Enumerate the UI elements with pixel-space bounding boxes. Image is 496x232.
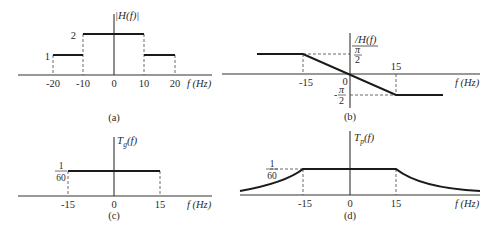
panel-d-tick: -15 bbox=[298, 198, 312, 209]
svg-text:60: 60 bbox=[56, 173, 66, 183]
panel-a-tick: -20 bbox=[46, 78, 60, 89]
panel-c-tick: 0 bbox=[111, 199, 116, 210]
panel-b-tick: -15 bbox=[299, 77, 313, 88]
svg-text:1: 1 bbox=[270, 159, 275, 169]
panel-b-phase: /H(f) π 2 - π 2 -15 0 15 f (Hz) (b) bbox=[222, 33, 480, 123]
panel-d-phase-delay: Tp(f) 1 60 -15 0 15 f (Hz) (d) bbox=[240, 131, 480, 222]
svg-text:2: 2 bbox=[339, 95, 344, 106]
panel-a-xunit: f (Hz) bbox=[187, 78, 212, 90]
panel-a-level-2: 2 bbox=[71, 30, 76, 41]
panel-a-tick: 10 bbox=[139, 78, 150, 89]
panel-a-tick: 20 bbox=[170, 78, 181, 89]
panel-d-caption: (d) bbox=[344, 210, 357, 222]
panel-c-caption: (c) bbox=[108, 210, 120, 222]
panel-d-xunit: f (Hz) bbox=[455, 198, 480, 210]
panel-a-tick: -10 bbox=[76, 78, 90, 89]
panel-c-xunit: f (Hz) bbox=[187, 199, 212, 211]
panel-d-level-1-60: 1 60 bbox=[266, 159, 278, 181]
panel-d-ylabel: Tp(f) bbox=[354, 131, 375, 146]
panel-b-level-pos-pi-half: π 2 bbox=[354, 44, 362, 65]
panel-b-tick: 15 bbox=[391, 61, 402, 72]
panel-c-group-delay: Tg(f) 1 60 -15 0 15 f (Hz) (c) bbox=[18, 134, 212, 222]
panel-b-caption: (b) bbox=[344, 111, 357, 123]
svg-text:1: 1 bbox=[59, 161, 64, 171]
svg-text:60: 60 bbox=[267, 171, 277, 181]
svg-text:-: - bbox=[334, 89, 337, 100]
panel-a-tick: 0 bbox=[111, 78, 116, 89]
panel-c-level-1-60: 1 60 bbox=[55, 161, 67, 183]
panel-a-amplitude: |H(f)| 2 1 -20 -10 0 10 20 f (Hz) (a) bbox=[18, 9, 212, 124]
panel-b-level-neg-pi-half: - π 2 bbox=[334, 84, 346, 106]
svg-text:Tg(f): Tg(f) bbox=[117, 134, 138, 149]
panel-b-xunit: f (Hz) bbox=[455, 77, 480, 89]
panel-c-tick: -15 bbox=[61, 199, 75, 210]
panel-b-tick: 0 bbox=[342, 76, 347, 87]
panel-d-tick: 0 bbox=[347, 198, 352, 209]
svg-text:2: 2 bbox=[355, 54, 360, 65]
panel-c-ylabel: Tg(f) bbox=[117, 134, 138, 149]
panel-a-level-1: 1 bbox=[45, 51, 50, 62]
svg-text:Tp(f): Tp(f) bbox=[354, 131, 375, 146]
panel-d-tick: 15 bbox=[391, 198, 402, 209]
panel-a-ylabel: |H(f)| bbox=[115, 9, 139, 22]
panel-a-caption: (a) bbox=[108, 112, 120, 124]
panel-c-tick: 15 bbox=[155, 199, 166, 210]
figure: |H(f)| 2 1 -20 -10 0 10 20 f (Hz) (a) /H… bbox=[0, 0, 496, 232]
